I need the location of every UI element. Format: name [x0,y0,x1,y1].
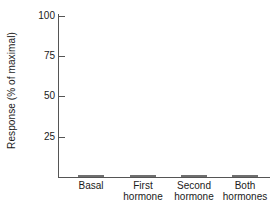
bar-second-hormone [181,175,207,177]
bar-chart-figure: Response (% of maximal) 100 75 50 25 Bas… [0,0,279,206]
x-category-label-first-hormone-line1: First [133,180,152,191]
x-category-label-basal-line1: Basal [78,180,103,191]
bar-basal [78,175,104,177]
y-tick-label-100: 100 [15,11,55,21]
y-tick-label-25: 25 [15,132,55,142]
x-axis-line [58,177,270,178]
x-category-label-both-hormones: Both hormones [213,180,277,202]
x-category-label-second-hormone-line1: Second [177,180,211,191]
plot-area [59,16,270,177]
y-axis-label: Response (% of maximal) [6,32,17,149]
y-tick-label-50: 50 [15,91,55,101]
bar-first-hormone [130,175,156,177]
x-category-label-both-hormones-line1: Both [235,180,256,191]
x-category-label-both-hormones-line2: hormones [213,191,277,202]
y-axis-label-container: Response (% of maximal) [0,0,22,180]
bar-both-hormones [232,175,258,177]
y-tick-label-75: 75 [15,51,55,61]
